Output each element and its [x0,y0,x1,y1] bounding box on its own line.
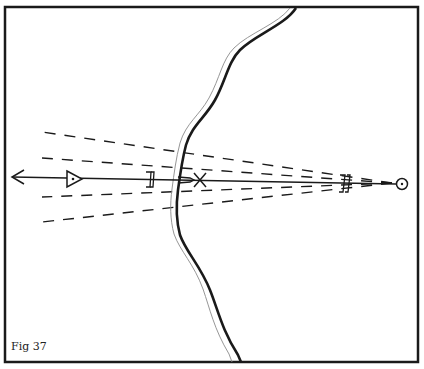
river [171,8,296,362]
figure-canvas [0,0,424,369]
figure-label: Fig 37 [11,340,47,353]
observer-circle-icon [397,179,408,190]
dashed-sight-lines [42,132,392,222]
triangle-mark-icon [67,171,82,187]
